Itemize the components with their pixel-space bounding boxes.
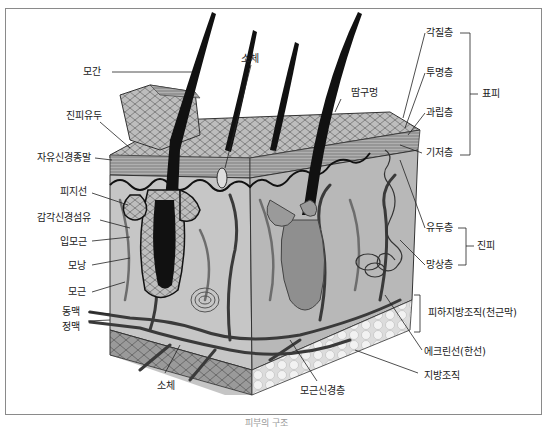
label-corpuscle-top: 소체 bbox=[241, 53, 259, 65]
figure-caption: 피부의 구조 bbox=[245, 416, 288, 429]
label-hair-root: 모근 bbox=[68, 286, 86, 298]
label-sensory-nerve-fiber: 감각신경섬유 bbox=[37, 212, 91, 224]
label-hair-shaft: 모간 bbox=[83, 66, 101, 78]
label-vein: 정맥 bbox=[62, 321, 80, 333]
label-sweat-pore: 땀구멍 bbox=[351, 87, 378, 99]
label-stratum-corneum: 각질층 bbox=[426, 27, 453, 39]
label-stratum-lucidum: 투명층 bbox=[426, 67, 453, 79]
label-dermal-papilla: 진피유두 bbox=[66, 110, 102, 122]
label-stratum-granulosum: 과립층 bbox=[426, 107, 453, 119]
label-epidermis: 표피 bbox=[482, 88, 500, 100]
label-adipose-tissue: 지방조직 bbox=[424, 370, 460, 382]
label-papillary-layer: 유두층 bbox=[426, 222, 453, 234]
label-hair-follicle: 모낭 bbox=[68, 260, 86, 272]
label-stratum-basale: 기저층 bbox=[426, 147, 453, 159]
label-hair-root-nerve-plexus: 모근신경층 bbox=[300, 385, 345, 397]
label-dermis: 진피 bbox=[477, 240, 495, 252]
label-corpuscle-bottom: 소체 bbox=[157, 380, 175, 392]
label-reticular-layer: 망상층 bbox=[426, 259, 453, 271]
label-arrector-pili: 입모근 bbox=[60, 236, 87, 248]
label-eccrine-gland: 에크린선(한선) bbox=[424, 346, 486, 358]
label-free-nerve-ending: 자유신경종말 bbox=[37, 152, 91, 164]
label-subcutis: 피하지방조직(천근막) bbox=[428, 307, 517, 319]
meissner-corpuscle bbox=[217, 168, 227, 188]
label-artery: 동맥 bbox=[62, 306, 80, 318]
label-sebaceous-gland: 피지선 bbox=[60, 186, 87, 198]
